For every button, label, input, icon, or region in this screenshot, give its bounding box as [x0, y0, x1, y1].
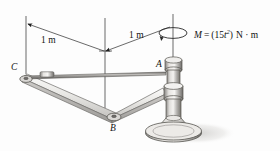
dimension-line-left	[28, 24, 104, 51]
pin-joint-b	[107, 113, 121, 121]
point-label-a: A	[156, 60, 162, 70]
moment-close-paren: )	[230, 30, 233, 40]
moment-symbol: M	[194, 30, 202, 40]
link-cb	[22, 74, 116, 123]
rod-sleeve	[40, 72, 54, 77]
moment-units: N · m	[236, 30, 258, 40]
point-label-b: B	[110, 124, 116, 134]
pin-joint-c	[20, 76, 32, 83]
moment-label: M=(15t2)N · m	[194, 29, 258, 41]
dimension-label-right: 1 m	[129, 31, 144, 41]
moment-equals: =	[204, 30, 209, 40]
mechanics-figure: 1 m 1 m C A B M=(15t2)N · m	[0, 0, 280, 151]
dimension-label-left: 1 m	[41, 36, 56, 46]
moment-coefficient: 15	[214, 30, 224, 40]
point-label-c: C	[11, 63, 17, 73]
figure-canvas	[0, 0, 280, 151]
tie-rod-ca	[24, 72, 166, 79]
